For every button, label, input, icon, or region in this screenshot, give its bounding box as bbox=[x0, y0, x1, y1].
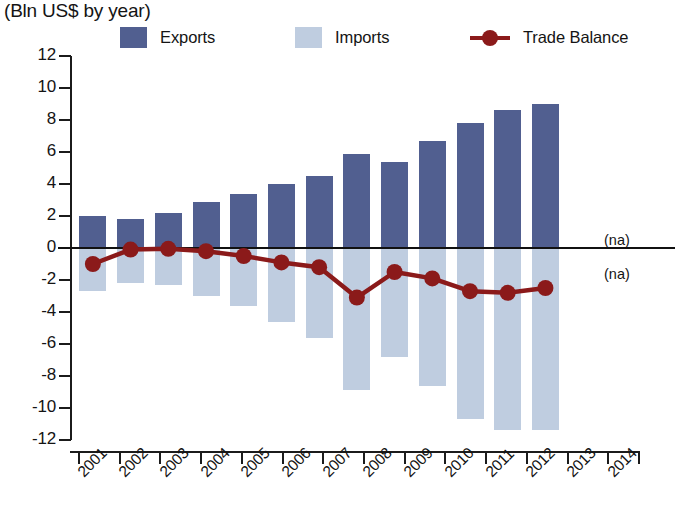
x-axis-tick-label: 2001 bbox=[74, 444, 111, 481]
legend-swatch-icon bbox=[295, 27, 322, 48]
x-axis-tick bbox=[638, 451, 640, 464]
legend-line-dot-icon bbox=[482, 30, 498, 46]
y-axis-tick bbox=[59, 87, 71, 89]
legend-item-exports[interactable]: Exports bbox=[120, 24, 215, 50]
y-axis-tick-label: -8 bbox=[10, 365, 56, 385]
legend-item-imports[interactable]: Imports bbox=[295, 24, 389, 50]
y-axis-tick bbox=[59, 407, 71, 409]
legend-line-marker-icon bbox=[470, 27, 510, 48]
na-annotation: (na) bbox=[604, 266, 630, 282]
y-axis-tick-label: 10 bbox=[10, 77, 56, 97]
x-axis-tick-label: 2007 bbox=[319, 444, 356, 481]
trade-balance-point[interactable] bbox=[85, 256, 101, 272]
y-axis-tick-label: 6 bbox=[10, 141, 56, 161]
y-axis-tick bbox=[59, 375, 71, 377]
legend-label: Imports bbox=[335, 28, 389, 47]
trade-balance-point[interactable] bbox=[160, 241, 176, 257]
y-axis-tick-label: 8 bbox=[10, 109, 56, 129]
legend-label: Trade Balance bbox=[523, 28, 628, 47]
trade-balance-point[interactable] bbox=[387, 264, 403, 280]
trade-balance-point[interactable] bbox=[424, 270, 440, 286]
x-axis-tick-label: 2012 bbox=[522, 444, 559, 481]
y-axis-tick bbox=[59, 55, 71, 57]
x-axis-tick-label: 2002 bbox=[115, 444, 152, 481]
y-axis-tick-label: 12 bbox=[10, 45, 56, 65]
x-axis-tick-label: 2004 bbox=[197, 444, 234, 481]
trade-balance-point[interactable] bbox=[273, 254, 289, 270]
y-axis-tick-label: -10 bbox=[10, 397, 56, 417]
y-axis-tick-label: -4 bbox=[10, 301, 56, 321]
y-axis-tick bbox=[59, 215, 71, 217]
trade-balance-point[interactable] bbox=[123, 242, 139, 258]
y-axis-tick-label: -6 bbox=[10, 333, 56, 353]
y-axis-tick-label: 4 bbox=[10, 173, 56, 193]
legend-item-trade-balance[interactable]: Trade Balance bbox=[470, 24, 628, 50]
chart-legend: ExportsImportsTrade Balance bbox=[120, 24, 650, 50]
trade-balance-point[interactable] bbox=[349, 290, 365, 306]
y-axis-tick-label: 2 bbox=[10, 205, 56, 225]
trade-balance-point[interactable] bbox=[462, 283, 478, 299]
trade-balance-point[interactable] bbox=[311, 259, 327, 275]
plot-area bbox=[74, 56, 602, 440]
trade-balance-point[interactable] bbox=[537, 280, 553, 296]
trade-balance-point[interactable] bbox=[198, 243, 214, 259]
x-axis-tick-label: 2003 bbox=[156, 444, 193, 481]
y-axis-tick bbox=[59, 279, 71, 281]
trade-balance-point[interactable] bbox=[500, 285, 516, 301]
y-axis-tick-label: 0 bbox=[10, 237, 56, 257]
x-axis-tick-label: 2013 bbox=[563, 444, 600, 481]
y-axis-tick bbox=[59, 151, 71, 153]
x-axis-tick-label: 2005 bbox=[237, 444, 274, 481]
y-axis-labels: 121086420-2-4-6-8-10-12 bbox=[0, 0, 56, 505]
trade-balance-point[interactable] bbox=[236, 248, 252, 264]
y-axis-tick bbox=[59, 439, 71, 441]
y-axis-tick-label: -12 bbox=[10, 429, 56, 449]
na-annotation: (na) bbox=[604, 232, 630, 248]
y-axis-tick bbox=[59, 119, 71, 121]
x-axis-tick-label: 2010 bbox=[441, 444, 478, 481]
x-axis-tick-label: 2006 bbox=[278, 444, 315, 481]
y-axis-tick-label: -2 bbox=[10, 269, 56, 289]
y-axis-tick bbox=[59, 311, 71, 313]
legend-swatch-icon bbox=[120, 27, 147, 48]
x-axis-tick-label: 2014 bbox=[604, 444, 641, 481]
y-axis-tick bbox=[59, 183, 71, 185]
x-axis-tick-label: 2008 bbox=[359, 444, 396, 481]
y-axis-tick bbox=[59, 343, 71, 345]
trade-balance-line-layer bbox=[74, 56, 602, 440]
legend-label: Exports bbox=[160, 28, 215, 47]
x-axis-tick-label: 2009 bbox=[400, 444, 437, 481]
